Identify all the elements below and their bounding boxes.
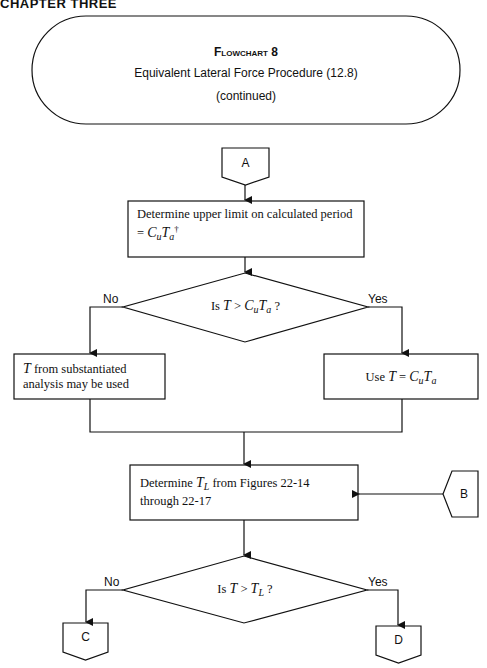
connector-c-label: C: [63, 630, 108, 644]
determine-tl-text: Determine TL from Figures 22-14 through …: [140, 475, 355, 509]
flowchart-subtitle: (continued): [32, 89, 460, 103]
decision-1-question: Is T > CuTa ?: [123, 298, 368, 317]
yes-box-text: Use T = CuTa: [324, 369, 478, 388]
decision-2-yes-label: Yes: [368, 575, 388, 589]
connector-a-label: A: [222, 156, 269, 170]
decision-2-no-label: No: [104, 575, 119, 589]
flowchart-title: Equivalent Lateral Force Procedure (12.8…: [32, 66, 460, 80]
connector-b-label: B: [450, 487, 478, 501]
running-header: CHAPTER THREE: [0, 0, 117, 11]
flowchart-number: Flowchart 8: [32, 45, 460, 59]
upper-limit-line1: Determine upper limit on calculated peri…: [137, 207, 361, 222]
decision-1-no-label: No: [103, 292, 118, 306]
decision-1-yes-label: Yes: [368, 292, 388, 306]
decision-2-question: Is T > TL ?: [123, 581, 367, 600]
upper-limit-equation: = CuTa†: [137, 222, 361, 244]
dagger-footnote-mark: †: [174, 224, 179, 234]
no-box-text: T from substantiated analysis may be use…: [23, 361, 163, 392]
connector-d-label: D: [376, 633, 421, 647]
upper-limit-text: Determine upper limit on calculated peri…: [137, 207, 361, 244]
